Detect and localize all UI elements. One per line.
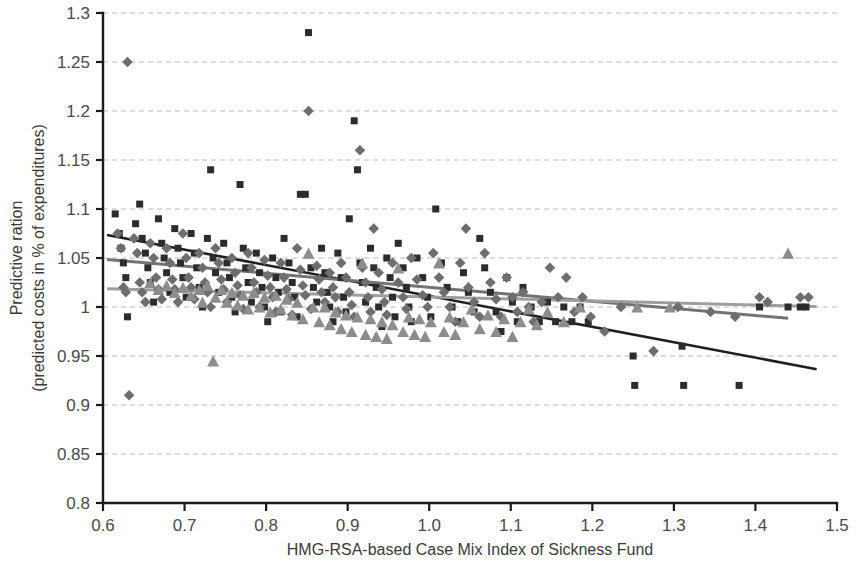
data-point [112,210,119,217]
y-tick-label-1.1: 1.1 [66,200,90,219]
data-point [367,245,374,252]
data-point [389,294,396,301]
x-tick-label-1.1: 1.1 [499,516,523,535]
data-point [177,259,184,266]
x-tick-label-1.3: 1.3 [662,516,686,535]
data-point [212,269,219,276]
data-point [351,117,358,124]
data-point [340,294,347,301]
data-point [785,304,792,311]
data-point [139,235,146,242]
data-point [256,269,263,276]
data-point [237,181,244,188]
data-point [124,313,131,320]
data-point [403,284,410,291]
data-point [259,284,266,291]
data-point [346,215,353,222]
data-point [136,201,143,208]
data-point [272,274,279,281]
x-tick-label-0.9: 0.9 [336,516,360,535]
data-point [207,166,214,173]
x-tick-label-1.2: 1.2 [581,516,605,535]
data-point [560,304,567,311]
y-tick-label-1.05: 1.05 [57,249,90,268]
data-point [631,382,638,389]
scatter-chart-figure: 0.80.850.90.9511.051.11.151.21.251.30.60… [0,0,857,568]
data-point [630,353,637,360]
data-point [310,284,317,291]
plot-svg: 0.80.850.90.9511.051.11.151.21.251.30.60… [0,0,857,568]
data-point [395,240,402,247]
data-point [210,255,217,262]
data-point [163,269,170,276]
data-point [318,245,325,252]
data-point [487,289,494,296]
data-point [756,304,763,311]
y-tick-label-1.15: 1.15 [57,151,90,170]
data-point [679,343,686,350]
y-tick-label-1.2: 1.2 [66,102,90,121]
y-tick-label-0.95: 0.95 [57,347,90,366]
data-point [269,255,276,262]
data-point [302,191,309,198]
data-point [383,255,390,262]
data-point [736,382,743,389]
y-tick-label-1.3: 1.3 [66,4,90,23]
data-point [253,250,260,257]
data-point [220,240,227,247]
data-point [334,250,341,257]
data-point [568,318,575,325]
x-tick-label-1.5: 1.5 [825,516,849,535]
y-axis-title-line-1: Predictive ration [8,201,25,316]
data-point [144,264,151,271]
data-point [122,274,129,281]
y-tick-label-1: 1 [81,298,90,317]
data-point [132,220,139,227]
x-axis-title: HMG-RSA-based Case Mix Index of Sickness… [287,541,653,558]
data-point [680,382,687,389]
data-point [120,259,127,266]
data-point [803,304,810,311]
y-tick-label-1.25: 1.25 [57,53,90,72]
data-point [354,166,361,173]
x-tick-label-1.4: 1.4 [744,516,768,535]
data-point [155,215,162,222]
data-point [552,318,559,325]
data-point [226,274,233,281]
data-point [264,318,271,325]
data-point [161,255,168,262]
data-point [281,235,288,242]
data-point [432,206,439,213]
data-point [481,264,488,271]
data-point [175,245,182,252]
data-point [204,235,211,242]
data-point [375,304,382,311]
y-tick-label-0.8: 0.8 [66,494,90,513]
data-point [248,299,255,306]
data-point [289,279,296,286]
x-tick-label-0.6: 0.6 [91,516,115,535]
x-tick-label-0.8: 0.8 [254,516,278,535]
data-point [150,299,157,306]
data-point [171,225,178,232]
x-tick-label-0.7: 0.7 [173,516,197,535]
y-axis-title-line-2: (predicted costs in % of expenditures) [30,124,47,392]
chart-background [0,0,857,568]
y-tick-label-0.9: 0.9 [66,396,90,415]
data-point [305,29,312,36]
x-tick-label-1.0: 1.0 [417,516,441,535]
data-point [460,269,467,276]
data-point [285,259,292,266]
data-point [188,230,195,237]
data-point [476,235,483,242]
y-tick-label-0.85: 0.85 [57,445,90,464]
data-point [387,274,394,281]
data-point [142,250,149,257]
